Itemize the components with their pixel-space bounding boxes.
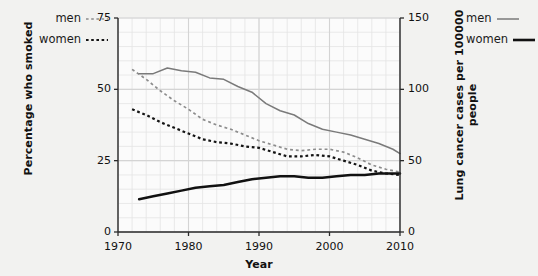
chart-figure: men women men women Percentage who s xyxy=(0,0,538,276)
plot-area xyxy=(0,0,538,276)
